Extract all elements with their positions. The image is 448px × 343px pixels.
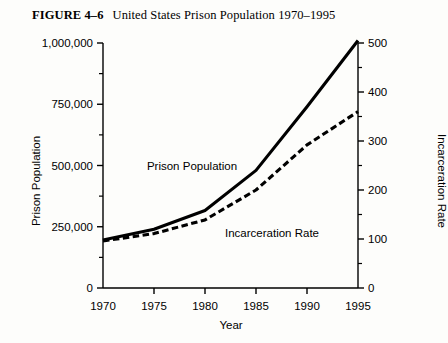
y-axis-right-tick-label: 300 [368,135,387,147]
x-axis-tick-label: 1985 [243,300,269,312]
y-axis-right-tick-label: 0 [368,282,374,294]
series-line-incarceration-rate [103,112,358,241]
y-axis-right-tick-label: 100 [368,233,387,245]
x-axis-title: Year [103,319,359,331]
x-axis-tick-label: 1975 [141,300,167,312]
y-axis-right-tick-label: 400 [368,86,387,98]
y-axis-left-tick-label: 500,000 [51,160,93,172]
y-axis-left-tick-label: 250,000 [51,221,93,233]
y-axis-left-tick-label: 0 [87,282,93,294]
series-line-prison-population [103,41,358,240]
x-axis-tick-label: 1990 [294,300,320,312]
series-annotation-prison-population: Prison Population [147,160,237,172]
y-axis-left-tick-label: 750,000 [51,98,93,110]
x-axis-tick-label: 1995 [345,300,371,312]
x-axis-tick-label: 1970 [90,300,116,312]
series-annotation-incarceration-rate: Incarceration Rate [225,227,319,239]
y-axis-right-tick-label: 500 [368,37,387,49]
x-axis-tick-label: 1980 [192,300,218,312]
y-axis-left-tick-label: 1,000,000 [42,37,93,49]
y-axis-right-title: Incarceration Rate [436,111,448,251]
y-axis-right-tick-label: 200 [368,184,387,196]
y-axis-left-title: Prison Population [30,121,42,241]
